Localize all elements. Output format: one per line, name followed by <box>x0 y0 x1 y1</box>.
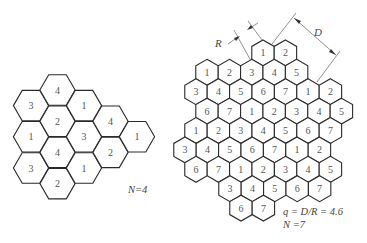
cell-channel-label: 1 <box>82 163 87 174</box>
cell-channel-label: 1 <box>261 47 266 58</box>
left-cluster-caption: N=4 <box>127 184 148 195</box>
cell-channel-label: 6 <box>194 164 199 175</box>
cell-channel-label: 1 <box>306 86 311 97</box>
cell-channel-label: 6 <box>205 106 210 117</box>
cell-channel-label: 5 <box>238 86 243 97</box>
cell-channel-label: 3 <box>294 106 299 117</box>
cell-channel-label: 5 <box>227 144 232 155</box>
cell-channel-label: 4 <box>250 183 255 194</box>
cell-channel-label: 1 <box>249 106 254 117</box>
cell-channel-label: 7 <box>272 144 277 155</box>
cell-channel-label: 3 <box>238 125 243 136</box>
cell-channel-label: 2 <box>55 116 60 127</box>
cell-channel-label: 3 <box>82 131 87 142</box>
cell-channel-label: 6 <box>261 86 266 97</box>
cell-channel-label: 5 <box>294 67 299 78</box>
cell-channel-label: 3 <box>29 163 34 174</box>
cell-channel-label: 6 <box>295 183 300 194</box>
cell-channel-label: 2 <box>216 125 221 136</box>
cell-channel-label: 4 <box>205 144 210 155</box>
cell-channel-label: 4 <box>216 86 221 97</box>
q-ratio-caption: q = D/R = 4.6 <box>283 206 344 217</box>
d-label: D <box>313 26 322 38</box>
cell-channel-label: 6 <box>250 144 255 155</box>
cell-channel-label: 1 <box>29 131 34 142</box>
cell-channel-label: 2 <box>272 106 277 117</box>
cell-channel-label: 3 <box>29 100 34 111</box>
cell-channel-label: 2 <box>55 178 60 189</box>
cell-channel-label: 7 <box>261 203 266 214</box>
r-label: R <box>214 37 222 49</box>
cell-channel-label: 1 <box>205 67 210 78</box>
cell-channel-label: 3 <box>183 144 188 155</box>
cell-channel-label: 5 <box>272 183 277 194</box>
cell-channel-label: 4 <box>108 116 113 127</box>
frequency-reuse-diagram: 3134242131421 N=4 1212345345671267123451… <box>0 0 367 243</box>
caption-n4: N=4 <box>127 184 148 195</box>
caption-n7: N =7 <box>282 219 306 230</box>
cell-channel-label: 5 <box>283 125 288 136</box>
right-hex-cluster-n7: 1212345345671267123451234567345671267123… <box>174 40 353 221</box>
d-extension-line-2 <box>317 51 340 82</box>
q-ratio-text: q = D/R = 4.6 <box>283 206 344 217</box>
cell-channel-label: 3 <box>283 164 288 175</box>
cell-channel-label: 4 <box>317 106 322 117</box>
right-cluster-caption: N =7 <box>282 219 306 230</box>
cell-channel-label: 4 <box>306 164 311 175</box>
cell-channel-label: 7 <box>317 183 322 194</box>
cell-channel-label: 1 <box>135 131 140 142</box>
cell-channel-label: 4 <box>272 67 277 78</box>
r-arrow-icon-right <box>247 25 253 30</box>
cell-channel-label: 2 <box>108 147 113 158</box>
cell-channel-label: 7 <box>216 164 221 175</box>
r-extension-line-1 <box>234 30 251 61</box>
cell-channel-label: 2 <box>317 144 322 155</box>
cell-channel-label: 2 <box>328 86 333 97</box>
cell-channel-label: 2 <box>227 67 232 78</box>
left-hex-cluster-n4: 3134242131421 <box>13 75 154 199</box>
cell-channel-label: 5 <box>339 106 344 117</box>
cell-channel-label: 7 <box>328 125 333 136</box>
cell-channel-label: 3 <box>194 86 199 97</box>
cell-channel-label: 7 <box>227 106 232 117</box>
cell-channel-label: 6 <box>306 125 311 136</box>
cell-channel-label: 1 <box>238 164 243 175</box>
cell-channel-label: 5 <box>328 164 333 175</box>
cell-channel-label: 2 <box>283 47 288 58</box>
cell-channel-label: 7 <box>283 86 288 97</box>
cell-channel-label: 3 <box>228 183 233 194</box>
cell-channel-label: 3 <box>249 67 254 78</box>
cell-channel-label: 4 <box>261 125 266 136</box>
r-extension-line-2 <box>248 21 262 40</box>
cell-channel-label: 1 <box>194 125 199 136</box>
cell-channel-label: 4 <box>55 85 60 96</box>
cell-channel-label: 4 <box>55 147 60 158</box>
cell-channel-label: 1 <box>295 144 300 155</box>
cell-channel-label: 2 <box>261 164 266 175</box>
d-extension-line-1 <box>272 13 296 44</box>
cell-channel-label: 1 <box>82 100 87 111</box>
cell-channel-label: 6 <box>239 203 244 214</box>
